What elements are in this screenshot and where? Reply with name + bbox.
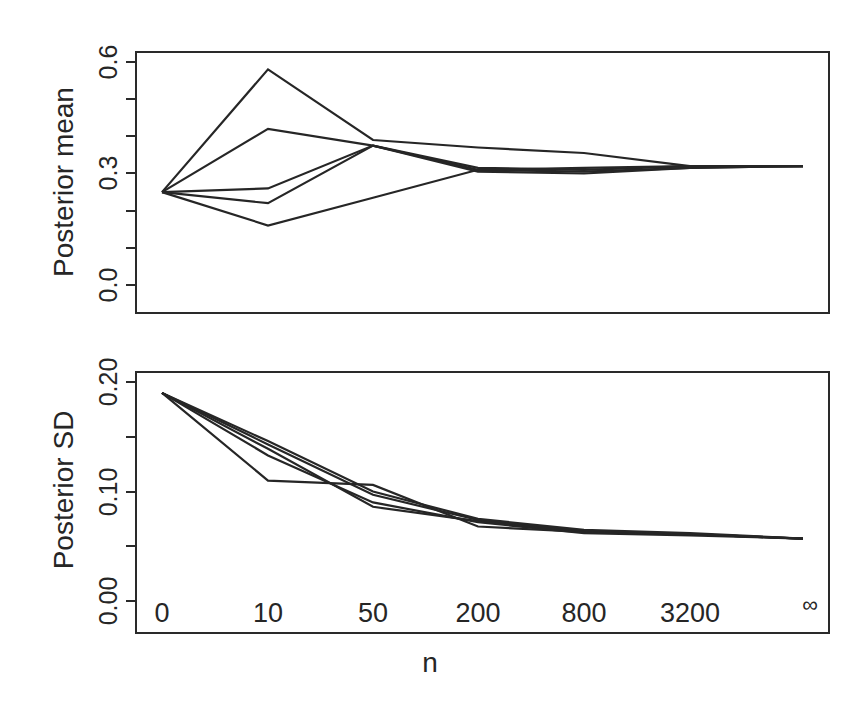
series-line bbox=[162, 393, 803, 539]
y-tick-label: 0.6 bbox=[94, 45, 122, 80]
y-axis-bottom: 0.20 0.10 0.00 bbox=[94, 358, 136, 626]
plot-frame-bottom bbox=[136, 372, 829, 633]
plot-frame-top bbox=[136, 52, 829, 313]
x-tick-label-infinity: ∞ bbox=[802, 592, 818, 617]
series-line bbox=[162, 166, 803, 225]
y-axis-top: 0.6 0.3 0.0 bbox=[94, 45, 136, 303]
y-tick-label: 0.00 bbox=[94, 577, 122, 626]
y-tick-label: 0.3 bbox=[94, 156, 122, 191]
x-tick-labels: 0 10 50 200 800 3200 ∞ bbox=[154, 592, 817, 628]
series-line bbox=[162, 129, 803, 192]
series-group-bottom bbox=[162, 393, 803, 539]
y-axis-label-top: Posterior mean bbox=[48, 87, 79, 277]
series-line bbox=[162, 393, 803, 539]
x-tick-label: 200 bbox=[455, 598, 500, 628]
panel-posterior-mean: 0.6 0.3 0.0 Posterior mean bbox=[48, 45, 829, 313]
panel-posterior-sd: 0.20 0.10 0.00 Posterior SD 0 10 50 200 … bbox=[48, 358, 829, 678]
series-line bbox=[162, 69, 803, 192]
x-tick-label: 50 bbox=[358, 598, 388, 628]
series-line bbox=[162, 146, 803, 204]
x-tick-label: 800 bbox=[561, 598, 606, 628]
x-tick-label: 10 bbox=[253, 598, 283, 628]
y-axis-label-bottom: Posterior SD bbox=[48, 411, 79, 570]
figure: 0.6 0.3 0.0 Posterior mean 0.20 0.10 0.0… bbox=[0, 0, 867, 711]
series-line bbox=[162, 393, 803, 539]
series-line bbox=[162, 393, 803, 539]
series-group-top bbox=[162, 69, 803, 225]
x-tick-label: 3200 bbox=[660, 598, 720, 628]
y-tick-label: 0.0 bbox=[94, 268, 122, 303]
series-line bbox=[162, 393, 803, 539]
y-tick-label: 0.10 bbox=[94, 468, 122, 517]
x-axis-label: n bbox=[422, 647, 438, 678]
x-tick-label: 0 bbox=[154, 598, 169, 628]
y-tick-label: 0.20 bbox=[94, 358, 122, 407]
